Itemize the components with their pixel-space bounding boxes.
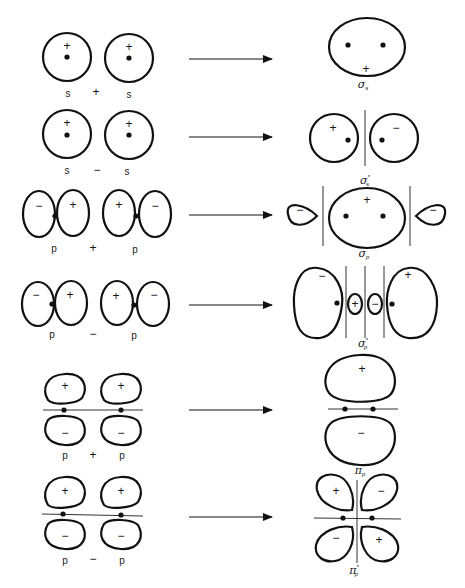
nucleus-dot [380, 213, 385, 218]
combination-operator: + [89, 241, 96, 255]
nucleus-dot [379, 137, 384, 142]
phase-sign: + [375, 533, 382, 547]
nucleus-dot [345, 42, 350, 47]
combination-operator: − [89, 552, 96, 566]
row-p-minus-p-lateral: + − + − p − p + − − + π*p [42, 475, 401, 577]
orbital-label-left: s [66, 88, 71, 99]
phase-sign: − [150, 288, 157, 302]
mo-label-sigma-star-s: σ*s [360, 174, 371, 187]
p-lobe [23, 191, 55, 237]
orbital-label-left: p [62, 450, 68, 461]
combination-operator: − [89, 327, 96, 341]
phase-sign: − [377, 484, 384, 498]
mo-label-pi-star-p: π*p [348, 564, 359, 577]
phase-sign: + [362, 62, 369, 76]
nucleus-dot [369, 515, 374, 520]
nucleus-dot [64, 132, 69, 137]
orbital-label-left: s [65, 165, 70, 176]
nucleus-dot [389, 301, 394, 306]
p-lobe [139, 191, 171, 237]
mo-label-sigma-star-p: σ*p [358, 337, 369, 350]
p-lobe [101, 281, 133, 325]
phase-sign: − [332, 531, 339, 545]
nucleus-dot [49, 301, 54, 306]
combination-operator: − [93, 163, 100, 177]
mo-label-sigma-s: σs [358, 78, 369, 91]
row-s-plus-s: + + s + s + σs [43, 18, 405, 100]
phase-sign: + [117, 484, 124, 498]
phase-sign: + [363, 193, 370, 207]
phase-sign: − [61, 529, 68, 543]
orbital-label-right: p [119, 450, 125, 461]
nucleus-dot [61, 407, 66, 412]
orbital-label-left: p [62, 555, 68, 566]
nucleus-dot [345, 137, 350, 142]
phase-sign: − [117, 529, 124, 543]
row-s-minus-s: + + s − s + − σ*s [43, 110, 418, 187]
phase-sign: + [112, 289, 119, 303]
nucleus-dot [118, 512, 123, 517]
nucleus-dot [380, 42, 385, 47]
orbital-label-right: s [125, 166, 130, 177]
phase-sign: + [61, 484, 68, 498]
phase-sign: − [35, 199, 42, 213]
row-p-plus-p-lateral: + − + − p + p + − πp [43, 355, 398, 477]
phase-sign: + [66, 288, 73, 302]
phase-sign: + [404, 268, 411, 282]
nucleus-dot [340, 515, 345, 520]
nucleus-dot [126, 55, 131, 60]
phase-sign: − [61, 426, 68, 440]
nucleus-dot [370, 406, 375, 411]
phase-sign: + [69, 198, 76, 212]
phase-sign: − [151, 199, 158, 213]
nucleus-dot [334, 300, 339, 305]
internuclear-axis [42, 514, 143, 516]
row-p-minus-p-axial: − + + − p − p − + − + σ*p [22, 266, 437, 350]
nucleus-dot [131, 302, 136, 307]
orbital-label-right: s [127, 89, 132, 100]
p-lobe [103, 190, 135, 236]
orbital-label-left: p [51, 243, 57, 254]
phase-sign: + [332, 484, 339, 498]
phase-sign: − [371, 297, 378, 311]
phase-sign: + [125, 40, 132, 54]
nucleus-dot [118, 407, 123, 412]
phase-sign: + [329, 121, 336, 135]
orbital-label-right: p [132, 244, 138, 255]
pi-p-lower-lobe [325, 416, 395, 465]
combination-operator: + [92, 85, 99, 99]
phase-sign: + [115, 198, 122, 212]
phase-sign: + [63, 116, 70, 130]
phase-sign: + [63, 39, 70, 53]
orbital-label-right: p [131, 330, 137, 341]
sigma-star-p-outer-lobe-right [387, 268, 437, 338]
phase-sign: + [358, 362, 365, 376]
phase-sign: − [296, 203, 303, 217]
phase-sign: − [357, 426, 364, 440]
nucleus-dot [343, 213, 348, 218]
phase-sign: − [117, 426, 124, 440]
nucleus-dot [60, 511, 65, 516]
phase-sign: − [32, 288, 39, 302]
combination-operator: + [89, 448, 96, 462]
mo-diagram: + + s + s + σs + + s − s + − σ*s [0, 0, 465, 588]
phase-sign: − [318, 269, 325, 283]
phase-sign: − [392, 121, 399, 135]
nucleus-dot [133, 213, 138, 218]
orbital-label-right: p [119, 555, 125, 566]
phase-sign: + [125, 117, 132, 131]
phase-sign: + [61, 379, 68, 393]
phase-sign: − [429, 203, 436, 217]
p-lobe [57, 190, 89, 236]
phase-sign: + [117, 379, 124, 393]
nucleus-dot [64, 54, 69, 59]
orbital-label-left: p [49, 329, 55, 340]
nucleus-dot [342, 406, 347, 411]
nucleus-dot [126, 132, 131, 137]
phase-sign: + [351, 297, 358, 311]
row-p-plus-p-axial: − + + − p + p − + − σp [23, 186, 445, 260]
